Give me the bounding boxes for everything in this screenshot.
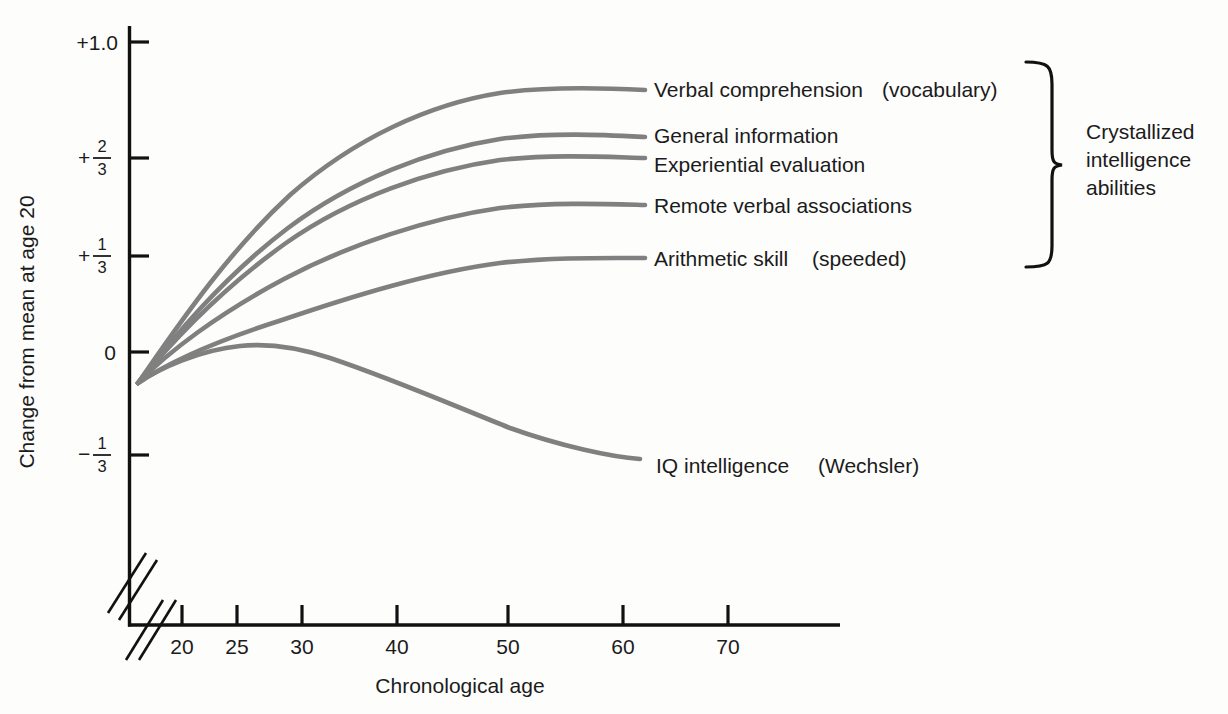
y-tick-label-1-3-numerator: 1: [97, 235, 106, 253]
y-tick-label-neg1-3-denominator: 3: [97, 457, 106, 475]
x-tick-label-40: 40: [385, 635, 408, 658]
series-label-arithmetic-skill-text: Arithmetic skill: [654, 247, 788, 270]
figure-container: +1.0 + 2 3 + 1 3 0 − 1 3: [0, 0, 1228, 714]
x-tick-label-70: 70: [716, 635, 739, 658]
axis-break-marks: [108, 553, 176, 660]
crystallized-group-label: Crystallized intelligence abilities: [1086, 120, 1195, 199]
y-tick-label-neg1-3-numerator: 1: [97, 434, 106, 452]
x-tick-label-50: 50: [496, 635, 519, 658]
y-tick-label-2-3: + 2 3: [78, 137, 111, 178]
curve-iq-intelligence: [138, 345, 640, 459]
series-label-verbal-comprehension-text: Verbal comprehension: [654, 78, 863, 101]
series-label-experiential-evaluation-text: Experiential evaluation: [654, 153, 865, 176]
y-tick-label-2-3-numerator: 2: [97, 137, 106, 155]
y-tick-label-2-3-denominator: 3: [97, 160, 106, 178]
y-axis-title: Change from mean at age 20: [15, 195, 38, 468]
series-label-general-information-text: General information: [654, 124, 838, 147]
series-label-remote-verbal-associations: Remote verbal associations: [654, 194, 912, 217]
series-label-arithmetic-skill-paren: (speeded): [812, 247, 907, 270]
y-axis-ticks: [129, 42, 149, 455]
chart-canvas: +1.0 + 2 3 + 1 3 0 − 1 3: [0, 0, 1228, 714]
y-axis-break-slash-2: [119, 560, 157, 620]
series-label-experiential-evaluation: Experiential evaluation: [654, 153, 865, 176]
y-tick-label-2-3-sign: +: [78, 146, 90, 169]
series-label-iq-intelligence-paren: (Wechsler): [818, 454, 919, 477]
y-tick-label-1-3-sign: +: [78, 244, 90, 267]
x-axis-tick-labels: 20 25 30 40 50 60 70: [170, 635, 739, 658]
x-tick-label-60: 60: [611, 635, 634, 658]
brace-icon: [1026, 62, 1062, 267]
x-axis-ticks: [182, 605, 728, 625]
series-label-iq-intelligence-text: IQ intelligence: [656, 454, 789, 477]
series-label-remote-verbal-associations-text: Remote verbal associations: [654, 194, 912, 217]
x-tick-label-30: 30: [290, 635, 313, 658]
y-tick-label-0: 0: [104, 341, 116, 364]
series-label-verbal-comprehension: Verbal comprehension (vocabulary): [654, 78, 998, 101]
crystallized-group-brace: Crystallized intelligence abilities: [1026, 62, 1195, 267]
axis-group: [128, 26, 840, 627]
crystallized-group-label-line3: abilities: [1086, 176, 1156, 199]
series-label-iq-intelligence: IQ intelligence (Wechsler): [656, 454, 919, 477]
series-label-arithmetic-skill: Arithmetic skill (speeded): [654, 247, 907, 270]
data-curves: [138, 88, 645, 459]
y-tick-label-1-3: + 1 3: [78, 235, 111, 276]
y-tick-label-1.0: +1.0: [77, 31, 118, 54]
y-tick-label-1-3-denominator: 3: [97, 258, 106, 276]
y-tick-label-neg1-3: − 1 3: [78, 434, 111, 475]
y-axis-break-slash-1: [108, 553, 146, 613]
crystallized-group-label-line2: intelligence: [1086, 148, 1191, 171]
crystallized-group-label-line1: Crystallized: [1086, 120, 1195, 143]
y-tick-label-neg1-3-sign: −: [78, 442, 90, 465]
x-tick-label-20: 20: [170, 635, 193, 658]
series-label-general-information: General information: [654, 124, 838, 147]
series-label-verbal-comprehension-paren: (vocabulary): [882, 78, 998, 101]
series-labels: Verbal comprehension (vocabulary) Genera…: [654, 78, 998, 477]
x-axis-title: Chronological age: [375, 674, 544, 697]
x-tick-label-25: 25: [225, 635, 248, 658]
y-axis-tick-labels: +1.0 + 2 3 + 1 3 0 − 1 3: [77, 31, 118, 475]
